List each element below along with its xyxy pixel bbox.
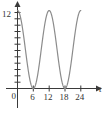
chart-svg: 12 0 6 12 18 24 t — [0, 0, 107, 113]
x-tick-label-24: 24 — [75, 92, 85, 102]
x-tick-label-12: 12 — [44, 92, 53, 102]
data-curve — [18, 11, 81, 89]
x-tick-label-18: 18 — [59, 92, 69, 102]
y-axis-top-label: 12 — [2, 9, 11, 19]
chart-figure: 12 0 6 12 18 24 t — [0, 0, 107, 113]
y-axis-arrow-icon — [15, 1, 21, 7]
x-axis-label: t — [99, 84, 102, 94]
x-tick-label-6: 6 — [30, 92, 35, 102]
origin-label: 0 — [12, 91, 17, 101]
